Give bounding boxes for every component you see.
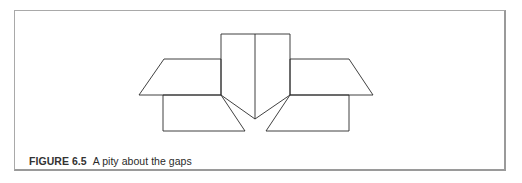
left-trapezoid [139, 59, 221, 95]
left-lower-box [163, 95, 245, 131]
figure-label: FIGURE 6.5 [29, 155, 87, 167]
center-rectangle [221, 34, 290, 119]
right-trapezoid [290, 59, 373, 95]
figure-caption: FIGURE 6.5A pity about the gaps [29, 155, 192, 167]
right-lower-box [266, 95, 349, 131]
figure-title: A pity about the gaps [93, 155, 192, 167]
